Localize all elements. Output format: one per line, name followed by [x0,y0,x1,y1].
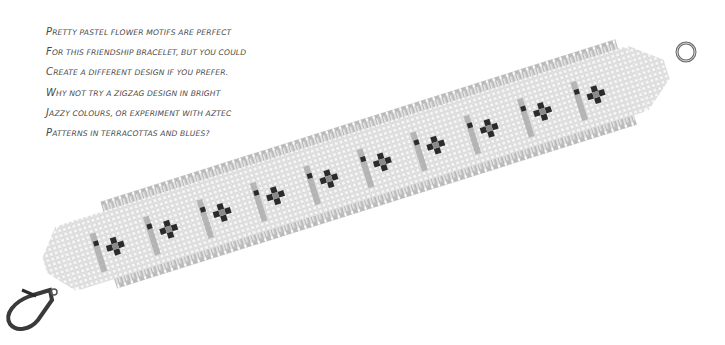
lobster-clasp-icon [8,289,57,329]
jump-ring-icon [677,43,695,61]
bracelet [32,27,680,307]
bead-band [56,46,649,291]
bracelet-photo [0,0,725,345]
